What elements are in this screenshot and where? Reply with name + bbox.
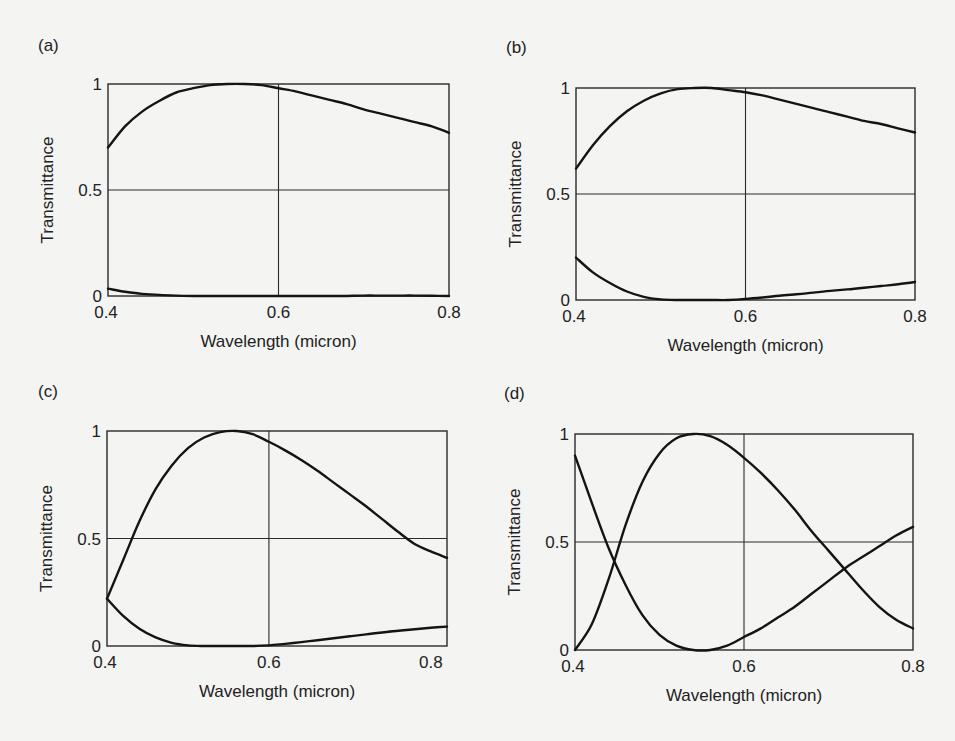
y-tick-label: 1 [92,422,101,441]
y-axis-title: Transmittance [505,488,524,595]
x-tick-label: 0.6 [267,303,291,322]
y-axis-title: Transmittance [506,140,525,247]
panel-c: 00.510.40.60.8Wavelength (micron)Transmi… [37,422,447,701]
x-axis-title: Wavelength (micron) [666,686,822,705]
y-tick-label: 1 [93,75,102,94]
y-tick-label: 0.5 [78,181,102,200]
curve-t-max [107,431,447,599]
x-tick-label: 0.4 [93,653,117,672]
panel-label: (d) [504,384,525,404]
y-axis-title: Transmittance [38,136,57,243]
x-axis-title: Wavelength (micron) [199,682,355,701]
x-axis-title: Wavelength (micron) [200,332,356,351]
x-tick-label: 0.8 [437,303,461,322]
y-tick-label: 1 [560,425,569,444]
y-tick-label: 0.5 [77,530,101,549]
y-tick-label: 1 [561,79,570,98]
x-tick-label: 0.6 [732,657,756,676]
y-tick-label: 0.5 [546,185,570,204]
y-axis-title: Transmittance [37,485,56,592]
y-tick-label: 0.5 [545,533,569,552]
curve-t-min [107,599,447,646]
panel-label: (c) [38,382,58,402]
x-tick-label: 0.4 [562,307,586,326]
x-tick-label: 0.8 [419,653,443,672]
panel-b: 00.510.40.60.8Wavelength (micron)Transmi… [506,79,927,355]
panel-label: (a) [38,36,59,56]
x-tick-label: 0.6 [734,307,758,326]
x-tick-label: 0.8 [901,657,925,676]
figure: 00.510.40.60.8Wavelength (micron)Transmi… [0,0,955,741]
chart-canvas: 00.510.40.60.8Wavelength (micron)Transmi… [0,0,955,741]
x-tick-label: 0.4 [561,657,585,676]
x-tick-label: 0.4 [94,303,118,322]
x-axis-title: Wavelength (micron) [667,336,823,355]
panel-d: 00.510.40.60.8Wavelength (micron)Transmi… [505,425,925,705]
x-tick-label: 0.8 [903,307,927,326]
x-tick-label: 0.6 [257,653,281,672]
panel-a: 00.510.40.60.8Wavelength (micron)Transmi… [38,75,461,351]
panel-label: (b) [506,38,527,58]
